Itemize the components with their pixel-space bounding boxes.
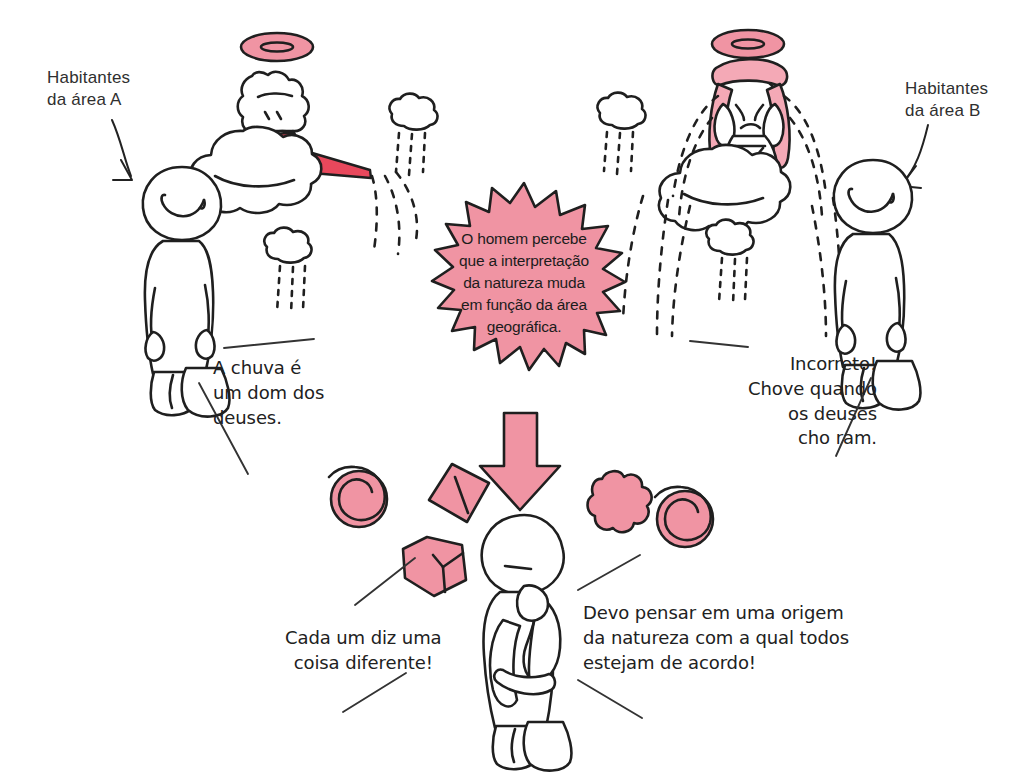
spiral-right-shape	[655, 487, 713, 547]
rain-cloud-right-lower	[706, 220, 753, 304]
rain-cloud-left-lower	[264, 228, 311, 314]
caption-right-speech: Incorreto! Chove quando os deuses cho ra…	[748, 352, 877, 451]
angel-right-group	[623, 30, 841, 336]
human-center-thinking-figure	[482, 515, 572, 770]
flower-shape	[588, 471, 652, 532]
rain-cloud-left-upper	[390, 94, 438, 175]
caption-bottom-right-speech: Devo pensar em uma origem da natureza co…	[583, 601, 849, 675]
halo-left-icon	[241, 33, 313, 61]
down-arrow-shape	[480, 413, 560, 510]
cube-shape	[403, 537, 466, 596]
illustration-canvas: .ink { fill:none; stroke:#1f1f1f; stroke…	[0, 0, 1028, 784]
rain-cloud-right-upper	[598, 93, 646, 174]
pointer-arrow-area-a	[112, 120, 132, 180]
halo-right-icon	[712, 30, 784, 58]
diamond-shape	[429, 464, 489, 522]
caption-bottom-left-speech: Cada um diz uma coisa diferente!	[285, 626, 442, 676]
spiral-left-shape	[329, 467, 387, 527]
label-habitantes-area-b: Habitantes da área B	[905, 78, 988, 123]
caption-left-speech: A chuva é um dom dos deuses.	[213, 356, 324, 430]
starburst-text: O homem percebe que a interpretação da n…	[443, 228, 605, 338]
label-habitantes-area-a: Habitantes da área A	[47, 67, 130, 112]
angel-left-group	[190, 33, 417, 254]
